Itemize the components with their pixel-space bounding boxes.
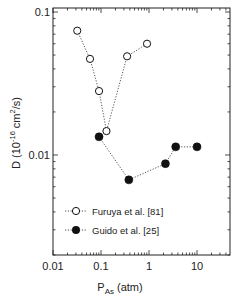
legend-label: Guido et al. [25] [92, 225, 159, 236]
x-tick-label: 0.1 [93, 260, 108, 272]
y-tick-label: 0.1 [35, 6, 50, 18]
data-point-open [86, 55, 93, 62]
legend-marker-open [72, 207, 79, 214]
series-guido [95, 133, 201, 184]
data-point-filled [172, 143, 180, 151]
chart: 0.010.1110 0.10.01 Furuya et al. [81]Gui… [0, 0, 241, 300]
data-point-open [124, 53, 131, 60]
legend-label: Furuya et al. [81] [92, 206, 163, 217]
x-tick-label: 0.01 [42, 260, 63, 272]
series-furuya [74, 27, 151, 135]
data-point-filled [161, 160, 169, 168]
y-axis-title: D (10-16 cm2/s) [8, 97, 22, 169]
data-point-open [103, 127, 110, 134]
x-axis-title: PAs (atm) [97, 281, 142, 296]
y-tick-label: 0.01 [29, 149, 50, 161]
data-point-filled [193, 143, 201, 151]
data-point-filled [95, 133, 103, 141]
data-point-filled [125, 176, 133, 184]
plot-border [53, 8, 230, 255]
legend-marker-filled [72, 226, 80, 234]
legend: Furuya et al. [81]Guido et al. [25] [65, 206, 163, 236]
x-tick-label: 1 [146, 260, 152, 272]
data-point-open [95, 87, 102, 94]
x-tick-label: 10 [191, 260, 203, 272]
y-axis-ticks: 0.10.01 [29, 6, 230, 255]
data-point-open [143, 40, 150, 47]
data-point-open [74, 27, 81, 34]
data-series [74, 27, 201, 184]
plot-frame [53, 8, 230, 255]
